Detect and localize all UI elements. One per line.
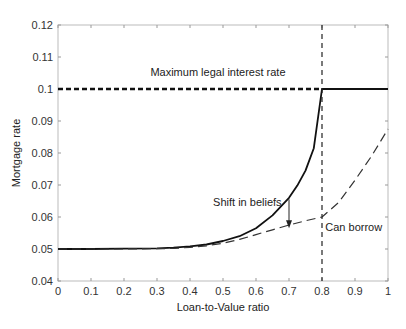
x-tick-label: 0.8 [314,285,329,297]
y-axis-label: Mortgage rate [10,119,22,187]
x-tick-label: 0.5 [215,285,230,297]
x-tick-label: 1 [385,285,391,297]
shift-in-beliefs-label: Shift in beliefs [213,196,282,208]
annotations: Maximum legal interest rateShift in beli… [150,66,382,233]
y-tick-label: 0.1 [38,83,53,95]
x-tick-label: 0.1 [83,285,98,297]
y-tick-label: 0.07 [32,179,53,191]
plot-area [58,25,388,281]
y-tick-label: 0.04 [32,275,53,287]
y-tick-label: 0.08 [32,147,53,159]
x-tick-label: 0 [55,285,61,297]
plot-frame [58,25,388,281]
y-tick-label: 0.11 [32,51,53,63]
arrow-down-icon [286,199,292,228]
x-tick-label: 0.3 [149,285,164,297]
max-rate-label: Maximum legal interest rate [150,66,285,78]
can-borrow-label: Can borrow [325,221,382,233]
x-tick-label: 0.4 [182,285,197,297]
y-tick-label: 0.05 [32,243,53,255]
x-tick-label: 0.7 [281,285,296,297]
x-tick-label: 0.9 [347,285,362,297]
y-tick-label: 0.12 [32,19,53,31]
y-tick-label: 0.09 [32,115,53,127]
y-tick-label: 0.06 [32,211,53,223]
x-tick-label: 0.2 [116,285,131,297]
series-layer [58,25,388,281]
mortgage-rate-chart: 00.10.20.30.40.50.60.70.80.91 0.040.050.… [0,0,406,329]
y-axis-ticks: 0.040.050.060.070.080.090.10.110.12 [32,19,388,287]
x-tick-label: 0.6 [248,285,263,297]
x-axis-label: Loan-to-Value ratio [177,301,270,313]
